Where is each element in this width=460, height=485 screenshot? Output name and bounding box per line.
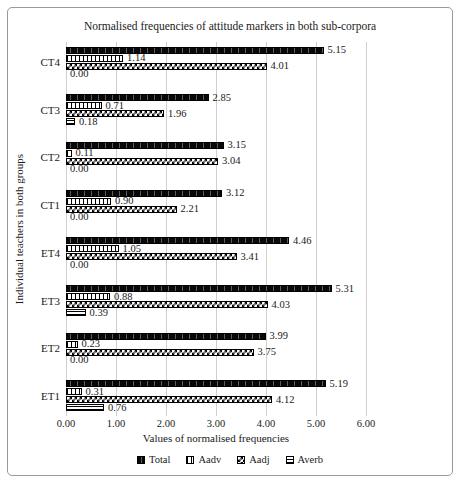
bar-value-label: 0.88: [114, 293, 132, 301]
bar-group-et4: ET44.461.053.410.00: [66, 237, 366, 269]
x-axis: 0.001.002.003.004.005.006.00: [66, 416, 366, 430]
bar-row: 1.05: [66, 245, 366, 253]
legend-item-aadj: Aadj: [237, 454, 269, 465]
x-axis-label: Values of normalised frequencies: [66, 432, 366, 444]
bar-value-label: 1.05: [123, 245, 141, 253]
bar-aadj-et4: [66, 253, 237, 260]
legend-swatch-checker-pattern: [237, 456, 245, 464]
bar-total-ct1: [66, 190, 222, 197]
bar-aadv-ct2: [66, 150, 72, 157]
bar-value-label: 1.14: [127, 54, 145, 62]
bar-total-et4: [66, 237, 289, 244]
bar-row: 0.11: [66, 149, 366, 157]
bar-value-label: 2.21: [181, 205, 199, 213]
legend-label: Aadj: [249, 454, 269, 465]
category-label-ct3: CT3: [26, 104, 60, 116]
bar-aadv-et4: [66, 245, 119, 252]
bar-value-label: 5.19: [330, 380, 348, 388]
bar-row: 3.41: [66, 253, 366, 261]
bar-row: 3.75: [66, 348, 366, 356]
bar-value-label: 2.85: [213, 94, 231, 102]
bar-row: 0.31: [66, 388, 366, 396]
bar-row: 5.19: [66, 380, 366, 388]
y-axis-label: Individual teachers in both groups: [13, 154, 25, 304]
bar-row: 1.14: [66, 54, 366, 62]
bar-value-label: 0.39: [90, 309, 108, 317]
category-label-et1: ET1: [26, 390, 60, 402]
bar-aadj-ct4: [66, 63, 267, 70]
bar-value-label: 4.46: [293, 237, 311, 245]
bar-row: 1.96: [66, 110, 366, 118]
bar-value-label: 0.90: [115, 197, 133, 205]
x-tick-label: 6.00: [357, 418, 375, 429]
x-tick-label: 3.00: [207, 418, 225, 429]
bar-value-label: 0.71: [106, 102, 124, 110]
bar-row: 3.15: [66, 141, 366, 149]
category-label-ct2: CT2: [26, 151, 60, 163]
bar-value-label: 1.96: [168, 110, 186, 118]
bar-row: 0.00: [66, 356, 366, 364]
bar-value-label: 5.31: [336, 285, 354, 293]
category-label-et3: ET3: [26, 295, 60, 307]
bar-value-label: 3.75: [258, 348, 276, 356]
bar-row: 0.18: [66, 118, 366, 126]
legend-item-aadv: Aadv: [186, 454, 221, 465]
bar-value-label: 4.01: [271, 62, 289, 70]
bar-value-label: 5.15: [328, 46, 346, 54]
bar-row: 0.00: [66, 213, 366, 221]
category-label-et4: ET4: [26, 247, 60, 259]
plot-region: Individual teachers in both groups CT45.…: [14, 42, 446, 416]
bar-value-label: 0.11: [76, 149, 94, 157]
bar-aadj-et2: [66, 349, 254, 356]
bar-value-label: 0.00: [70, 261, 88, 269]
bar-value-label: 4.12: [276, 396, 294, 404]
bar-row: 0.00: [66, 70, 366, 78]
chart-title: Normalised frequencies of attitude marke…: [14, 20, 446, 32]
bar-row: 3.04: [66, 157, 366, 165]
bar-averb-ct3: [66, 118, 75, 125]
x-tick-label: 2.00: [157, 418, 175, 429]
bar-group-et3: ET35.310.884.030.39: [66, 285, 366, 317]
bar-aadv-et2: [66, 341, 78, 348]
bar-row: 4.01: [66, 62, 366, 70]
bar-aadv-et1: [66, 388, 82, 395]
bar-total-ct3: [66, 94, 209, 101]
bar-value-label: 0.00: [70, 213, 88, 221]
bar-total-et1: [66, 380, 326, 387]
x-tick-label: 4.00: [257, 418, 275, 429]
bar-group-et1: ET15.190.314.120.76: [66, 380, 366, 412]
legend-label: Total: [149, 454, 170, 465]
plot-area: CT45.151.144.010.00CT32.850.711.960.18CT…: [66, 42, 366, 416]
chart-frame: Normalised frequencies of attitude marke…: [7, 7, 453, 476]
bar-value-label: 4.03: [272, 301, 290, 309]
legend-item-averb: Averb: [286, 454, 323, 465]
category-label-et2: ET2: [26, 342, 60, 354]
legend-label: Averb: [298, 454, 323, 465]
bar-value-label: 3.15: [228, 141, 246, 149]
bar-row: 0.00: [66, 261, 366, 269]
bar-aadv-ct1: [66, 198, 111, 205]
bar-total-et3: [66, 285, 332, 292]
bar-aadv-et3: [66, 293, 110, 300]
legend-label: Aadv: [198, 454, 221, 465]
legend-swatch-hlines-pattern: [286, 456, 294, 464]
bar-value-label: 0.00: [70, 356, 88, 364]
bar-value-label: 3.41: [241, 253, 259, 261]
bar-group-ct2: CT23.150.113.040.00: [66, 141, 366, 173]
category-label-ct4: CT4: [26, 56, 60, 68]
bar-row: 5.15: [66, 46, 366, 54]
bar-row: 0.90: [66, 197, 366, 205]
bar-group-ct3: CT32.850.711.960.18: [66, 94, 366, 126]
bar-row: 0.71: [66, 102, 366, 110]
bar-row: 0.00: [66, 165, 366, 173]
legend-swatch-vlines-pattern: [186, 456, 194, 464]
category-label-ct1: CT1: [26, 199, 60, 211]
bar-value-label: 0.00: [70, 70, 88, 78]
bar-value-label: 0.76: [108, 404, 126, 412]
bar-aadv-ct3: [66, 102, 102, 109]
x-tick-label: 1.00: [107, 418, 125, 429]
legend-item-total: Total: [137, 454, 170, 465]
bar-averb-et3: [66, 309, 86, 316]
bar-value-label: 3.12: [226, 189, 244, 197]
bar-row: 0.23: [66, 340, 366, 348]
